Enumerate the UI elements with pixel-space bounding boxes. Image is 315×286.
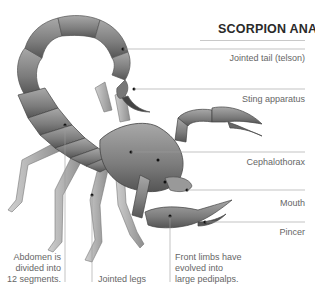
label-pedipalps: Front limbs have evolved into large pedi… (175, 252, 242, 285)
page-title: SCORPION ANATOMY (218, 22, 315, 36)
label-jointed-tail: Jointed tail (telson) (229, 53, 305, 63)
pedipalp-upper (175, 107, 262, 142)
scorpion-illustration (0, 0, 315, 286)
title-rule (200, 40, 305, 41)
label-jointed-legs: Jointed legs (98, 274, 146, 285)
label-mouth: Mouth (280, 198, 305, 208)
label-pincer: Pincer (279, 227, 305, 237)
label-cephalothorax: Cephalothorax (246, 157, 305, 167)
label-sting-apparatus: Sting apparatus (242, 94, 305, 104)
label-abdomen: Abdomen is divided into 12 segments. (7, 252, 61, 285)
